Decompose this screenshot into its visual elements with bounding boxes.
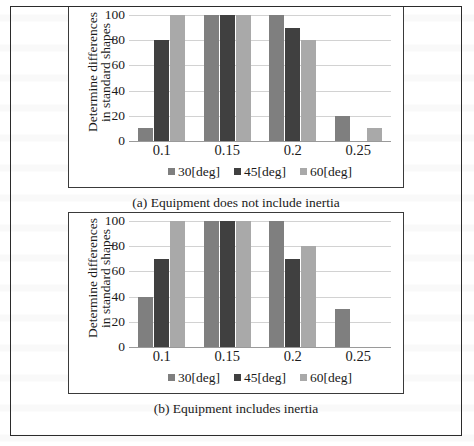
figure-outer-border — [10, 6, 462, 436]
